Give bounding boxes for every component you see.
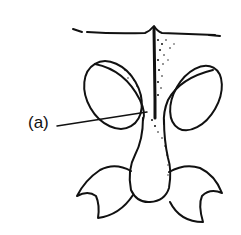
- left-petal: [72, 51, 153, 139]
- right-petal: [159, 57, 232, 140]
- central-stem: [154, 28, 155, 118]
- right-claw: [169, 166, 222, 222]
- top-boundary-line: [73, 26, 220, 36]
- stippling: [124, 39, 175, 176]
- central-lip: [130, 118, 171, 202]
- left-claw: [77, 166, 133, 218]
- label-a: (a): [28, 114, 49, 131]
- left-petal-outer-curve: [95, 64, 144, 120]
